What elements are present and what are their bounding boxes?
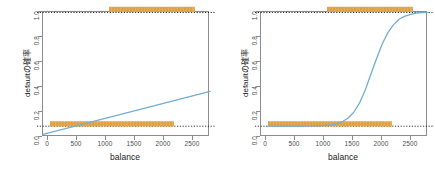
y-tick-label: 0.6 xyxy=(251,61,258,70)
x-tick-label: 1000 xyxy=(98,140,113,147)
panel-logistic-regression: defaultの確率 0.0 0.2 0.4 0.6 0.8 1.0 xyxy=(218,0,435,172)
x-tick-label: 1000 xyxy=(316,140,331,147)
y-tick-label: 0.8 xyxy=(251,36,258,45)
y-tick-mark xyxy=(256,136,260,137)
plot-area-left xyxy=(42,11,209,136)
y-tick-label: 0.2 xyxy=(251,111,258,120)
y-tick-label: 1.0 xyxy=(251,11,258,20)
x-tick-label: 2500 xyxy=(185,140,200,147)
x-tick-label: 500 xyxy=(70,140,81,147)
x-tick-label: 2000 xyxy=(156,140,171,147)
y-tick-label: 0.0 xyxy=(33,136,40,145)
plot-svg-right xyxy=(261,12,428,137)
y-tick-label: 0.6 xyxy=(33,61,40,70)
y-tick-label: 0.0 xyxy=(251,136,258,145)
x-tick-label: 1500 xyxy=(345,140,360,147)
plot-area-right xyxy=(260,11,427,136)
x-tick-label: 0 xyxy=(45,140,49,147)
x-axis-label-left: balance xyxy=(110,152,140,162)
y-tick-label: 0.4 xyxy=(33,86,40,95)
logistic-fit-curve xyxy=(268,12,428,126)
linear-fit-line xyxy=(43,91,210,134)
x-tick-label: 2500 xyxy=(403,140,418,147)
x-tick-label: 0 xyxy=(263,140,267,147)
figure-container: defaultの確率 0.0 0.2 0.4 0.6 0.8 1.0 xyxy=(0,0,435,172)
y-tick-label: 0.4 xyxy=(251,86,258,95)
y-tick-label: 0.8 xyxy=(33,36,40,45)
y-tick-label: 0.2 xyxy=(33,111,40,120)
rug-default-no-ticks xyxy=(51,121,171,126)
panel-linear-regression: defaultの確率 0.0 0.2 0.4 0.6 0.8 1.0 xyxy=(0,0,217,172)
plot-svg-left xyxy=(43,12,210,137)
y-tick-mark xyxy=(38,136,42,137)
x-axis-label-right: balance xyxy=(328,152,358,162)
x-tick-label: 500 xyxy=(288,140,299,147)
x-tick-label: 2000 xyxy=(374,140,389,147)
y-tick-label: 1.0 xyxy=(33,11,40,20)
x-tick-label: 1500 xyxy=(127,140,142,147)
